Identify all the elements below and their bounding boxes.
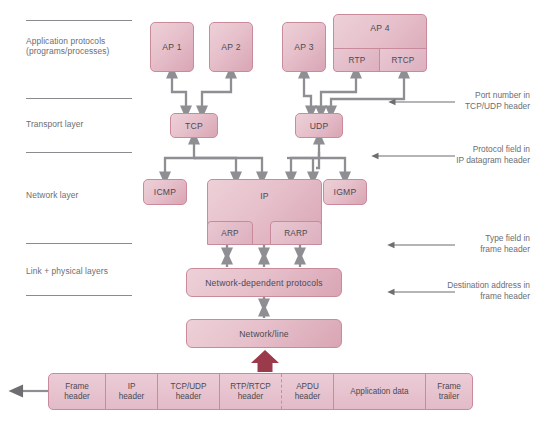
annotation-protocol-field: Protocol field in IP datagram header <box>358 144 530 165</box>
box-udp-label: UDP <box>310 121 329 131</box>
annotation-port-number: Port number in TCP/UDP header <box>370 90 530 111</box>
layer-label-application: Application protocols (programs/processe… <box>26 36 146 57</box>
box-network-line[interactable]: Network/line <box>186 319 342 348</box>
frame-cell-application-data: Application data <box>334 374 426 409</box>
box-rarp[interactable]: RARP <box>270 221 322 245</box>
frame-cell-frame-trailer: Frame trailer <box>426 374 472 409</box>
box-network-dependent-protocols[interactable]: Network-dependent protocols <box>186 268 342 297</box>
box-rarp-label: RARP <box>284 229 308 238</box>
box-ap4[interactable]: AP 4 RTP RTCP <box>333 14 427 72</box>
box-icmp-label: ICMP <box>154 187 176 197</box>
frame-cell-apdu-header: APDU header <box>282 374 334 409</box>
box-ip-label: IP <box>208 191 321 201</box>
frame-cell-rtp-rtcp-header: RTP/RTCP header <box>220 374 282 409</box>
annotation-type-field: Type field in frame header <box>370 233 530 254</box>
box-ap3-label: AP 3 <box>294 42 313 52</box>
layer-divider-transport-network <box>26 152 132 153</box>
box-rtp[interactable]: RTP <box>333 48 381 72</box>
frame-structure: Frame headerIP headerTCP/UDP headerRTP/R… <box>48 373 473 410</box>
box-rtcp[interactable]: RTCP <box>379 48 427 72</box>
box-tcp[interactable]: TCP <box>170 113 218 138</box>
box-udp[interactable]: UDP <box>295 113 343 138</box>
box-network-dependent-protocols-label: Network-dependent protocols <box>205 278 323 288</box>
layer-divider-network-link <box>26 243 132 244</box>
layer-label-transport: Transport layer <box>26 119 146 129</box>
box-arp-label: ARP <box>221 229 238 238</box>
box-igmp-label: IGMP <box>334 187 357 197</box>
box-ip[interactable]: IP ARP RARP <box>207 179 322 245</box>
layer-divider-app-transport <box>26 98 132 99</box>
box-arp[interactable]: ARP <box>207 221 253 245</box>
box-ap2[interactable]: AP 2 <box>209 22 253 72</box>
protocol-stack-diagram: Application protocols (programs/processe… <box>0 0 538 426</box>
box-ap4-label: AP 4 <box>334 23 426 33</box>
box-igmp[interactable]: IGMP <box>323 179 367 205</box>
layer-divider-top <box>26 20 132 21</box>
layer-label-link: Link + physical layers <box>26 266 156 276</box>
box-rtcp-label: RTCP <box>392 56 415 65</box>
box-tcp-label: TCP <box>185 121 203 131</box>
box-rtp-label: RTP <box>349 56 366 65</box>
frame-cell-tcp-udp-header: TCP/UDP header <box>158 374 220 409</box>
layer-divider-bottom <box>26 295 132 296</box>
frame-cell-frame-header: Frame header <box>49 374 106 409</box>
annotation-destination-address: Destination address in frame header <box>350 280 530 301</box>
box-ap1[interactable]: AP 1 <box>150 22 194 72</box>
encapsulation-arrow <box>251 350 279 372</box>
box-ap1-label: AP 1 <box>162 42 181 52</box>
box-ap2-label: AP 2 <box>221 42 240 52</box>
box-network-line-label: Network/line <box>239 329 289 339</box>
box-ap3[interactable]: AP 3 <box>282 22 326 72</box>
layer-label-network: Network layer <box>26 190 146 200</box>
frame-cell-ip-header: IP header <box>106 374 158 409</box>
box-icmp[interactable]: ICMP <box>143 179 187 205</box>
